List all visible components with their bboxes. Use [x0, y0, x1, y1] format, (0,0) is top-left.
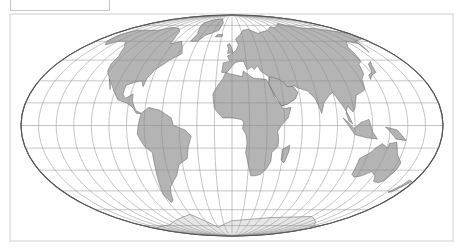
- world-map[interactable]: [0, 0, 465, 250]
- map-globe: [21, 15, 443, 236]
- map-label-box: [10, 0, 110, 11]
